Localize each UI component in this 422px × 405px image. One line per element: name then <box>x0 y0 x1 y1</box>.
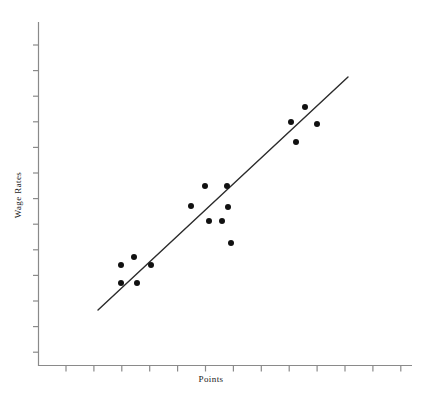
scatter-plot-figure: Points Wage Rates <box>0 0 422 405</box>
data-point-marker <box>288 119 294 125</box>
data-point-marker <box>219 218 225 224</box>
data-point-marker <box>202 183 208 189</box>
data-point-marker <box>118 262 124 268</box>
x-axis-title: Points <box>0 374 422 384</box>
y-axis-title: Wage Rates <box>13 155 23 235</box>
data-point-marker <box>293 139 299 145</box>
data-point-marker <box>134 280 140 286</box>
regression-trend-line <box>98 77 348 310</box>
data-point-marker <box>302 104 308 110</box>
plot-area <box>0 0 422 405</box>
y-axis-ticks <box>33 45 39 352</box>
data-point-marker <box>188 203 194 209</box>
data-point-marker <box>118 280 124 286</box>
data-point-marker <box>224 183 230 189</box>
data-point-marker <box>228 240 234 246</box>
data-point-marker <box>225 204 231 210</box>
data-point-marker <box>206 218 212 224</box>
data-point-marker <box>131 254 137 260</box>
x-axis-ticks <box>66 366 401 372</box>
data-point-marker <box>148 262 154 268</box>
data-point-marker <box>314 121 320 127</box>
